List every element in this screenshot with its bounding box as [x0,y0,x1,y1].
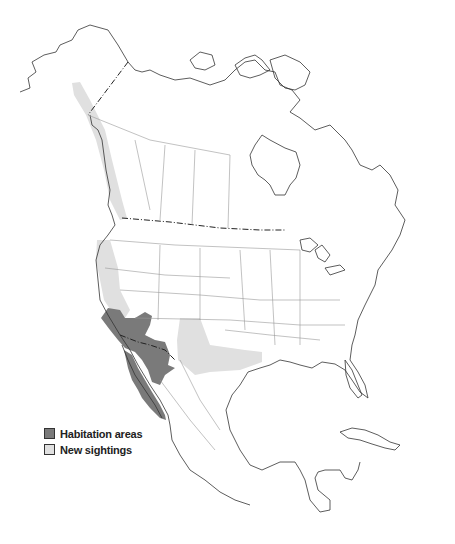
north-america-range-map [0,0,455,544]
habitation-areas [101,308,175,420]
legend-label-sightings: New sightings [60,444,132,456]
legend-item-habitation: Habitation areas [44,426,142,441]
state-province-borders [88,115,345,450]
legend: Habitation areas New sightings [44,426,142,458]
habitation-swatch-icon [44,428,55,439]
legend-label-habitation: Habitation areas [60,428,142,440]
sightings-swatch-icon [44,444,55,455]
legend-item-sightings: New sightings [44,442,142,457]
